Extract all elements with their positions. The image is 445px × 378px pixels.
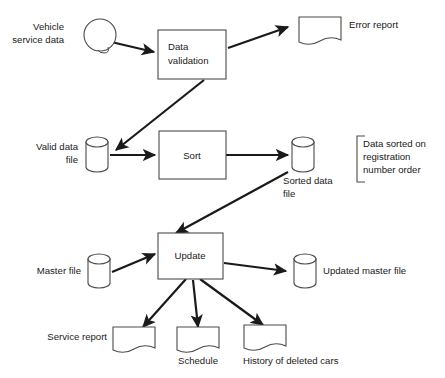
flowchart-diagram: Vehicle service data Data validation Err… bbox=[0, 0, 445, 378]
data-validation-label-line2: validation bbox=[168, 55, 209, 66]
annotation-sorted-label-line1: Data sorted on bbox=[363, 138, 426, 149]
node-schedule: Schedule bbox=[177, 327, 219, 366]
schedule-label: Schedule bbox=[178, 355, 218, 366]
updated-master-file-label: Updated master file bbox=[323, 265, 406, 276]
update-label: Update bbox=[175, 250, 206, 261]
vehicle-service-data-label-line1: Vehicle bbox=[33, 21, 64, 32]
node-update: Update bbox=[158, 233, 223, 279]
sorted-data-file-label-line1: Sorted data bbox=[283, 175, 333, 186]
sorted-data-file-label-line2: file bbox=[283, 188, 295, 199]
valid-data-file-label-line2: file bbox=[66, 154, 78, 165]
circle-icon bbox=[84, 19, 116, 51]
error-report-label: Error report bbox=[349, 19, 398, 30]
data-validation-label-line1: Data bbox=[168, 41, 189, 52]
node-sort: Sort bbox=[159, 131, 226, 179]
valid-data-file-cylinder-top bbox=[86, 137, 108, 147]
master-file-cylinder-top bbox=[88, 254, 110, 264]
valid-data-file-label-line1: Valid data bbox=[36, 141, 79, 152]
flowchart-canvas: Vehicle service data Data validation Err… bbox=[0, 0, 445, 378]
sort-label: Sort bbox=[183, 150, 201, 161]
node-data-validation: Data validation bbox=[158, 30, 226, 79]
updated-master-file-cylinder-top bbox=[294, 254, 316, 264]
history-of-deleted-cars-label: History of deleted cars bbox=[243, 355, 339, 366]
sorted-data-file-cylinder-top bbox=[292, 137, 314, 147]
vehicle-service-data-label-line2: service data bbox=[12, 34, 64, 45]
annotation-sorted-label-line2: registration bbox=[363, 151, 410, 162]
service-report-label: Service report bbox=[47, 331, 107, 342]
master-file-label: Master file bbox=[37, 265, 81, 276]
annotation-sorted-label-line3: number order bbox=[363, 164, 421, 175]
